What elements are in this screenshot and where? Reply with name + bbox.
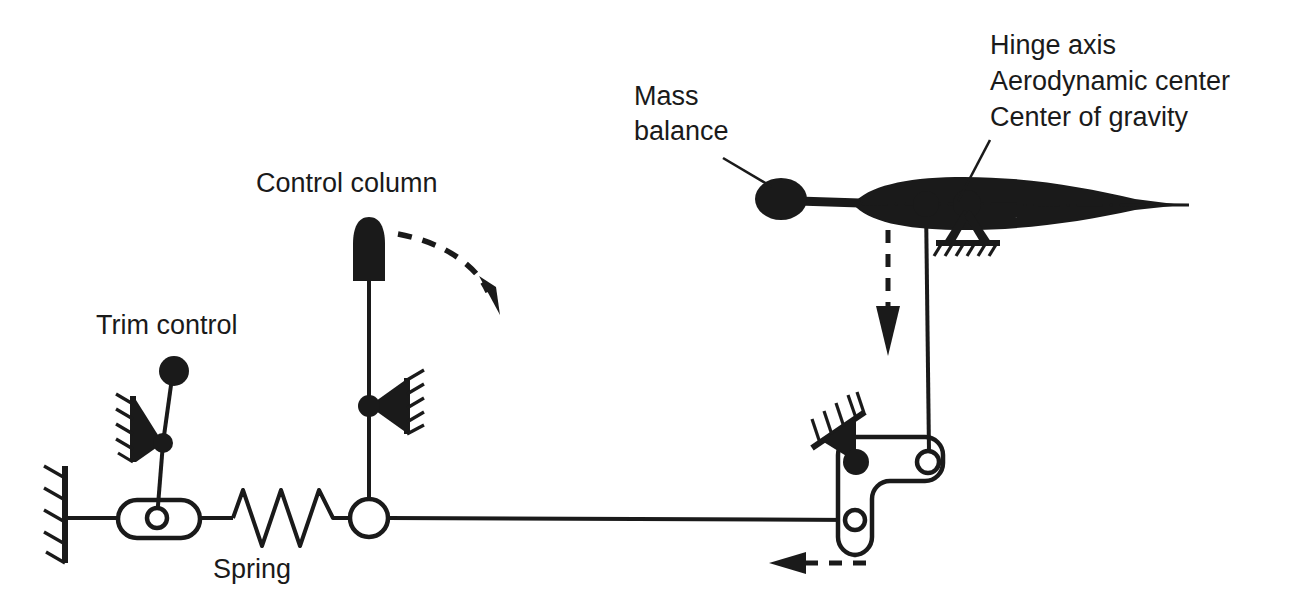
- label-mass-balance-line1: Mass: [634, 81, 699, 111]
- control-column-grip: [353, 217, 385, 281]
- label-control-column: Control column: [256, 168, 438, 198]
- mass-balance-weight: [755, 178, 860, 220]
- leader-line-mass-balance: [723, 158, 772, 187]
- horizontal-push-rod: [388, 518, 855, 520]
- ground-wall-left: [44, 466, 65, 563]
- control-rod-open-joint: [350, 499, 388, 537]
- aerodynamic-center-point: [913, 191, 939, 217]
- vertical-push-rod: [926, 204, 929, 452]
- bellcrank-lower-joint: [845, 510, 865, 530]
- trim-pivot-point: [153, 433, 173, 453]
- trim-pivot-bracket: [116, 394, 163, 462]
- control-column-assembly[interactable]: [350, 217, 424, 537]
- bellcrank-pivot-point: [843, 449, 869, 475]
- diagram-canvas: Trim control Control column Spring Mass …: [0, 0, 1314, 613]
- label-trim-control: Trim control: [96, 310, 238, 340]
- label-center-of-gravity: Center of gravity: [990, 102, 1189, 132]
- trim-slot-pin: [147, 508, 167, 528]
- label-spring: Spring: [213, 554, 291, 584]
- control-column-pivot-point: [358, 395, 380, 417]
- trim-lever-knob: [159, 356, 189, 386]
- label-mass-balance-line2: balance: [634, 116, 729, 146]
- trim-control-assembly[interactable]: [65, 356, 233, 538]
- label-aerodynamic-center: Aerodynamic center: [990, 66, 1230, 96]
- bellcrank-upper-joint: [917, 451, 939, 473]
- column-motion-arrow: [398, 234, 500, 315]
- label-hinge-axis: Hinge axis: [990, 30, 1116, 60]
- spring-element: [233, 490, 355, 546]
- bellcrank-assembly[interactable]: [812, 392, 943, 555]
- surface-motion-arrow: [876, 230, 900, 356]
